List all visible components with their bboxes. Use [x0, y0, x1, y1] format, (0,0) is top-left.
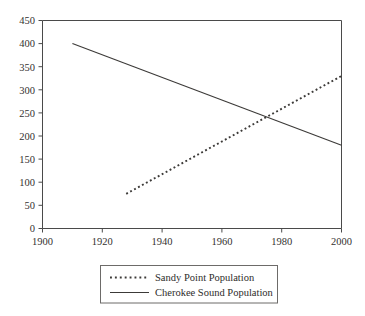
y-axis-label-300: 300	[19, 85, 35, 96]
y-axis-label-50: 50	[25, 200, 36, 211]
y-axis-label-150: 150	[19, 154, 35, 165]
x-axis-label-1980: 1980	[271, 236, 292, 247]
y-axis-label-450: 450	[19, 15, 35, 26]
y-axis-label-250: 250	[19, 108, 35, 119]
y-axis-label-100: 100	[19, 177, 35, 188]
x-axis-label-1900: 1900	[32, 236, 53, 247]
x-axis-label-1960: 1960	[211, 236, 232, 247]
x-axis-label-1940: 1940	[152, 236, 173, 247]
line-chart: 450 400 350 300 250 200 150 100 50 0 190…	[0, 0, 365, 316]
y-axis-label-0: 0	[30, 223, 35, 234]
chart-legend: Sandy Point Population Cherokee Sound Po…	[101, 266, 278, 304]
legend-label-cherokee-sound: Cherokee Sound Population	[155, 287, 274, 298]
x-axis-label-1920: 1920	[92, 236, 113, 247]
x-axis-label-2000: 2000	[331, 236, 352, 247]
y-axis-label-400: 400	[19, 38, 35, 49]
y-axis-label-350: 350	[19, 62, 35, 73]
legend-label-sandy-point: Sandy Point Population	[155, 272, 255, 283]
y-axis-label-200: 200	[19, 131, 35, 142]
chart-container: 450 400 350 300 250 200 150 100 50 0 190…	[0, 0, 365, 316]
